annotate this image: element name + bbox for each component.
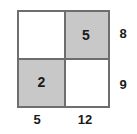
row-label-top: 8 (112, 27, 134, 40)
column-label-left: 5 (25, 113, 49, 126)
row-label-bottom: 9 (112, 78, 134, 91)
grid-cell-bottom-left: 2 (19, 58, 64, 106)
grid-cell-bottom-right (64, 58, 108, 106)
horizontal-divider-line (19, 58, 108, 60)
area-model-diagram: 5 2 8 9 5 12 (0, 0, 137, 134)
grid-cell-top-right: 5 (64, 12, 108, 58)
grid-square-outline: 5 2 (17, 10, 110, 108)
column-label-right: 12 (70, 113, 100, 126)
grid-cell-top-left (19, 12, 64, 58)
